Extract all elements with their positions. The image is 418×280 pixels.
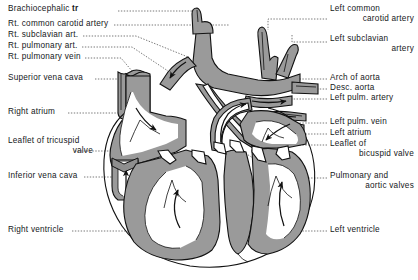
label-rt-subclavian-artery: Rt. subclavian art. (8, 30, 78, 40)
label-left-subclavian-artery: Left subclavianartery (330, 34, 414, 54)
label-rt-pulmonary-vein: Rt. pulmonary vein (8, 52, 81, 62)
label-leaflet-of-tricuspid-valve-line2: valve (8, 146, 93, 156)
label-right-atrium: Right atrium (8, 107, 55, 117)
label-brachiocephalic-trunk: Brachiocephalic tr (8, 4, 79, 14)
label-pulmonary-and-aortic-valves-line2: aortic valves (330, 181, 414, 191)
label-left-ventricle: Left ventricle (330, 225, 380, 235)
label-right-ventricle: Right ventricle (8, 225, 64, 235)
label-leaflet-of-bicuspid-valve: Leaflet ofbicuspid valve (330, 139, 414, 159)
label-leaflet-of-bicuspid-valve-line2: bicuspid valve (330, 149, 414, 159)
label-left-common-carotid-artery: Left commoncarotid artery (330, 4, 414, 24)
label-leaflet-of-bicuspid-valve-line1: Leaflet of (330, 139, 366, 148)
label-leaflet-of-tricuspid-valve: Leaflet of tricuspidvalve (8, 136, 93, 156)
label-rt-pulmonary-artery: Rt. pulmonary art. (8, 41, 78, 51)
label-left-subclavian-artery-line2: artery (330, 44, 414, 54)
label-left-atrium: Left atrium (330, 128, 371, 138)
label-left-pulmonary-artery: Left pulm. artery (330, 93, 393, 103)
label-brachiocephalic-trunk-text: Brachiocephalic (8, 4, 72, 13)
label-pulmonary-and-aortic-valves: Pulmonary andaortic valves (330, 171, 414, 191)
label-rt-common-carotid-artery: Rt. common carotid artery (8, 19, 108, 29)
label-left-pulmonary-vein: Left pulm. vein (330, 117, 387, 127)
label-superior-vena-cava: Superior vena cava (8, 73, 83, 83)
label-inferior-vena-cava: Inferior vena cava (8, 171, 78, 181)
label-left-subclavian-artery-line1: Left subclavian (330, 34, 388, 43)
label-arch-of-aorta: Arch of aorta (330, 73, 380, 83)
label-leaflet-of-tricuspid-valve-line1: Leaflet of tricuspid (8, 136, 79, 145)
label-brachiocephalic-trunk-abbr: tr (72, 4, 78, 13)
label-left-common-carotid-artery-line1: Left common (330, 4, 380, 13)
heart-anatomy-figure: .muscle { fill:#9a9a9a; stroke:#111; str… (0, 0, 418, 280)
label-left-common-carotid-artery-line2: carotid artery (330, 14, 414, 24)
label-descending-aorta: Desc. aorta (330, 83, 375, 93)
label-pulmonary-and-aortic-valves-line1: Pulmonary and (330, 171, 388, 180)
